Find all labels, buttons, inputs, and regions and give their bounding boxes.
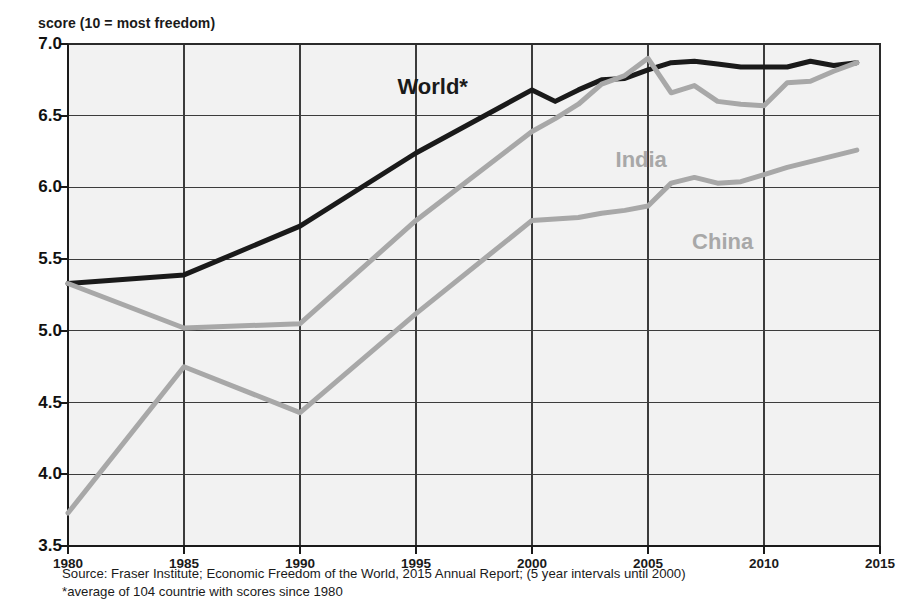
series-label-world: World* bbox=[397, 74, 467, 100]
series-label-china: China bbox=[692, 229, 753, 255]
y-tick-label: 5.0 bbox=[16, 321, 62, 341]
y-tick-label: 6.5 bbox=[16, 106, 62, 126]
y-tick-label: 3.5 bbox=[16, 536, 62, 556]
y-axis-ticks: 7.06.56.05.55.04.54.03.5 bbox=[0, 0, 62, 611]
y-tick-label: 5.5 bbox=[16, 249, 62, 269]
economic-freedom-chart: score (10 = most freedom) 7.06.56.05.55.… bbox=[0, 0, 908, 611]
y-tick-label: 4.0 bbox=[16, 464, 62, 484]
series-label-india: India bbox=[616, 147, 667, 173]
x-tick-label: 2010 bbox=[749, 556, 779, 571]
footnote: *average of 104 countrie with scores sin… bbox=[62, 584, 343, 599]
y-tick-label: 7.0 bbox=[16, 34, 62, 54]
y-tick-label: 4.5 bbox=[16, 393, 62, 413]
source-note: Source: Fraser Institute; Economic Freed… bbox=[62, 566, 686, 581]
x-tick-label: 2015 bbox=[865, 556, 895, 571]
y-tick-label: 6.0 bbox=[16, 177, 62, 197]
